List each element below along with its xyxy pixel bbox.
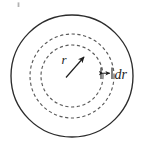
radius-label: r [61,52,67,67]
scan-speck-mark [18,2,20,7]
radius-arrow [66,57,84,78]
thickness-label: dr [115,67,128,82]
figure-container: r dr [0,0,142,148]
concentric-shell-diagram: r dr [0,0,142,148]
inner-dashed-circle [41,45,103,107]
